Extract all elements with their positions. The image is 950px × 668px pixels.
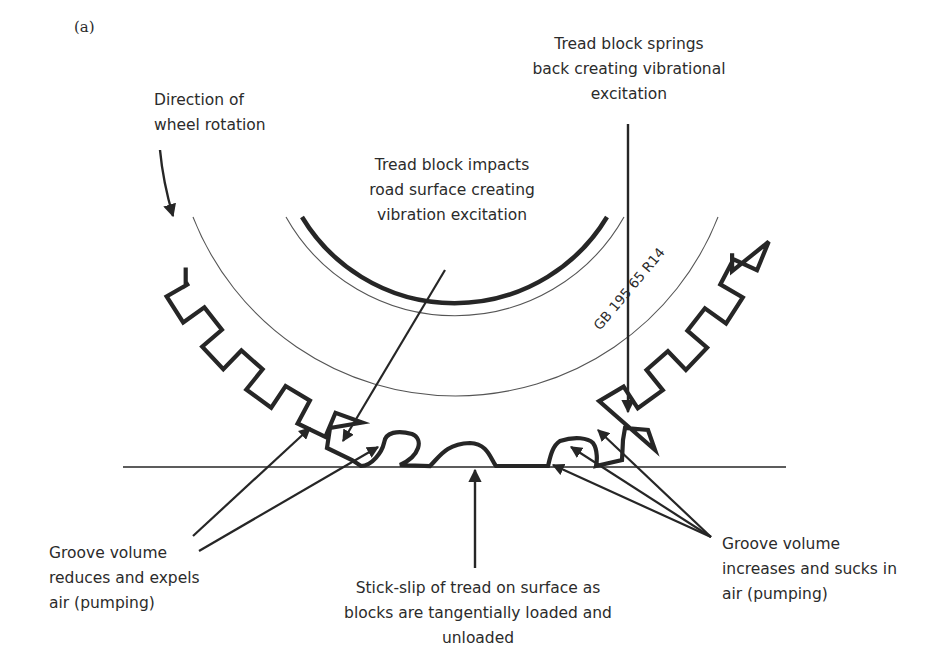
groove-increases-arrow-2 (571, 447, 711, 537)
label-groove-increases: Groove volume increases and sucks in air… (722, 532, 897, 607)
label-direction-of-rotation: Direction of wheel rotation (154, 88, 266, 138)
label-tread-impact: Tread block impacts road surface creatin… (352, 153, 552, 228)
tyre-sidewall-arc (193, 217, 718, 396)
impact-arrow (343, 270, 445, 441)
groove-increases-arrow-2-tail (553, 465, 711, 537)
groove-reduces-arrow-2 (199, 447, 378, 551)
label-stick-slip: Stick-slip of tread on surface as blocks… (318, 576, 638, 651)
tread-outline (167, 242, 769, 466)
label-groove-reduces: Groove volume reduces and expels air (pu… (49, 541, 200, 616)
panel-label: (a) (74, 18, 95, 36)
rotation-direction-arrow (160, 150, 173, 216)
label-tread-springs-back: Tread block springs back creating vibrat… (512, 32, 746, 107)
tyre-bead-arc (286, 217, 624, 316)
wheel-rim-arc (302, 217, 607, 303)
